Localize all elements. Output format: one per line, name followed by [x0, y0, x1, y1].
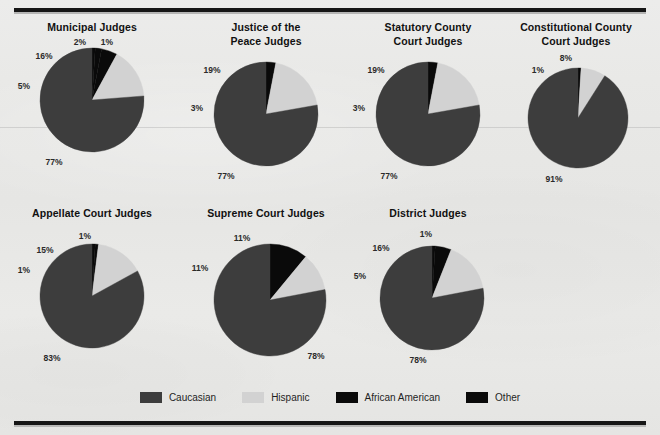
- legend-item: Hispanic: [242, 392, 309, 403]
- slice-percent-label: 15%: [36, 245, 53, 255]
- pie-area: 83%15%1%1%: [12, 224, 172, 350]
- pie-area: 77%19%3%: [186, 52, 346, 178]
- figure-page: Municipal Judges77%16%5%2%1%Justice of t…: [0, 0, 660, 435]
- slice-percent-label: 11%: [234, 233, 251, 243]
- chart-title: Justice of the Peace Judges: [186, 20, 346, 48]
- pie-slice: [528, 68, 628, 168]
- pie-chart: Appellate Court Judges83%15%1%1%: [12, 206, 172, 350]
- legend-item: Caucasian: [140, 392, 216, 403]
- slice-percent-label: 3%: [191, 103, 203, 113]
- slice-percent-label: 1%: [532, 65, 544, 75]
- slice-percent-label: 1%: [420, 229, 432, 239]
- slice-percent-label: 19%: [367, 65, 384, 75]
- legend-item: Other: [466, 392, 520, 403]
- slice-percent-label: 11%: [192, 263, 209, 273]
- legend-swatch-icon: [140, 392, 162, 403]
- slice-percent-label: 16%: [372, 243, 389, 253]
- top-rule: [14, 8, 646, 12]
- chart-title: Constitutional County Court Judges: [496, 20, 656, 48]
- slice-percent-label: 77%: [380, 171, 397, 181]
- slice-percent-label: 1%: [18, 265, 30, 275]
- slice-percent-label: 2%: [74, 37, 86, 47]
- pie-area: 78%16%5%1%: [348, 224, 508, 350]
- legend-swatch-icon: [336, 392, 358, 403]
- slice-percent-label: 5%: [18, 81, 30, 91]
- pie-area: 78%11%11%: [186, 224, 346, 350]
- pie-area: 91%8%1%: [496, 52, 656, 178]
- pie-chart: Statutory County Court Judges77%19%3%: [348, 20, 508, 178]
- legend: CaucasianHispanicAfrican AmericanOther: [0, 392, 660, 403]
- pie-chart: Supreme Court Judges78%11%11%: [186, 206, 346, 350]
- pie-chart: Municipal Judges77%16%5%2%1%: [12, 20, 172, 164]
- slice-percent-label: 1%: [79, 231, 91, 241]
- legend-label: African American: [365, 392, 441, 403]
- slice-percent-label: 78%: [409, 355, 426, 365]
- legend-swatch-icon: [242, 392, 264, 403]
- slice-percent-label: 16%: [35, 51, 52, 61]
- slice-percent-label: 78%: [307, 351, 324, 361]
- pie-graphic: [496, 52, 656, 192]
- slice-percent-label: 8%: [560, 53, 572, 63]
- slice-percent-label: 3%: [353, 103, 365, 113]
- pie-area: 77%19%3%: [348, 52, 508, 178]
- legend-label: Caucasian: [169, 392, 216, 403]
- slice-percent-label: 91%: [545, 174, 562, 184]
- slice-percent-label: 5%: [354, 271, 366, 281]
- slice-percent-label: 77%: [45, 157, 62, 167]
- pie-area: 77%16%5%2%1%: [12, 38, 172, 164]
- legend-label: Hispanic: [271, 392, 309, 403]
- chart-title: Appellate Court Judges: [12, 206, 172, 220]
- chart-title: Municipal Judges: [12, 20, 172, 34]
- legend-swatch-icon: [466, 392, 488, 403]
- pie-chart: Constitutional County Court Judges91%8%1…: [496, 20, 656, 178]
- slice-percent-label: 83%: [43, 353, 60, 363]
- legend-item: African American: [336, 392, 441, 403]
- pie-chart: Justice of the Peace Judges77%19%3%: [186, 20, 346, 178]
- slice-percent-label: 77%: [217, 171, 234, 181]
- chart-title: Supreme Court Judges: [186, 206, 346, 220]
- pie-chart: District Judges78%16%5%1%: [348, 206, 508, 350]
- pie-graphic: [186, 224, 346, 364]
- legend-label: Other: [495, 392, 520, 403]
- chart-title: Statutory County Court Judges: [348, 20, 508, 48]
- slice-percent-label: 1%: [101, 37, 113, 47]
- slice-percent-label: 19%: [203, 65, 220, 75]
- chart-title: District Judges: [348, 206, 508, 220]
- bottom-rule: [14, 421, 646, 425]
